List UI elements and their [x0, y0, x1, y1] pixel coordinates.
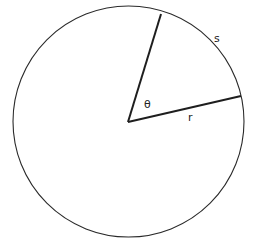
- angle-label-theta: θ: [144, 98, 151, 111]
- circle-diagram: θ r s: [0, 0, 255, 242]
- radius-label-r: r: [188, 111, 193, 124]
- arc-label-s: s: [214, 32, 220, 45]
